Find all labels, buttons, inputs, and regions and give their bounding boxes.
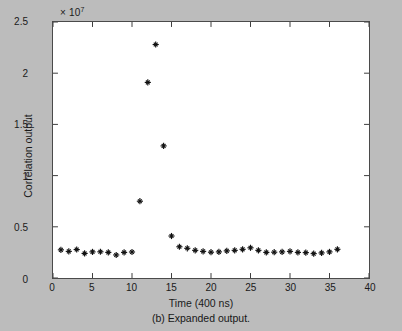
data-point-marker (66, 248, 72, 254)
data-point-marker (224, 248, 230, 254)
data-point-marker (208, 249, 214, 255)
data-point-marker (303, 250, 309, 256)
x-tick-label: 25 (245, 282, 256, 293)
x-tick-label: 5 (89, 282, 95, 293)
data-point-marker (89, 249, 95, 255)
y-axis-multiplier-base: × 10 (60, 7, 81, 18)
y-tick-label: 2.5 (14, 16, 28, 27)
figure-caption: (b) Expanded output. (0, 312, 402, 324)
data-point-marker (295, 249, 301, 255)
data-point-marker (287, 248, 293, 254)
x-tick-label: 15 (166, 282, 177, 293)
data-point-marker (326, 249, 332, 255)
x-axis-title: Time (400 ns) (0, 297, 402, 309)
data-point-marker (240, 246, 246, 252)
data-point-marker (271, 249, 277, 255)
data-point-marker (232, 247, 238, 253)
y-tick-label: 0 (22, 274, 28, 285)
data-point-marker (192, 247, 198, 253)
x-tick-label: 35 (325, 282, 336, 293)
data-point-marker (216, 249, 222, 255)
data-point-marker (113, 252, 119, 258)
scatter-plot-canvas (53, 22, 369, 278)
data-point-marker (168, 233, 174, 239)
data-point-marker (137, 198, 143, 204)
data-point-marker (263, 249, 269, 255)
y-axis-title: Correlation output (22, 76, 34, 236)
x-tick-label: 10 (126, 282, 137, 293)
plot-area (52, 21, 370, 279)
data-point-marker (334, 246, 340, 252)
data-point-marker (184, 245, 190, 251)
x-tick-label: 40 (364, 282, 375, 293)
x-tick-label: 20 (205, 282, 216, 293)
data-point-marker (153, 41, 159, 47)
data-point-marker (247, 245, 253, 251)
data-point-marker (200, 248, 206, 254)
data-point-marker (279, 249, 285, 255)
y-axis-multiplier-exponent: 7 (81, 6, 85, 13)
data-point-marker (58, 247, 64, 253)
figure-panel: × 107 00.511.522.5 0510152025303540 Time… (0, 0, 402, 331)
data-point-marker (105, 249, 111, 255)
data-point-marker (145, 79, 151, 85)
data-point-marker (121, 249, 127, 255)
axis-tick-marks (53, 22, 369, 278)
data-point-marker (311, 251, 317, 257)
x-tick-label: 30 (285, 282, 296, 293)
x-tick-label: 0 (49, 282, 55, 293)
data-point-marker (129, 249, 135, 255)
data-point-marker (161, 143, 167, 149)
data-point-marker (74, 246, 80, 252)
data-point-marker (82, 250, 88, 256)
y-axis-multiplier: × 107 (60, 6, 85, 18)
data-point-marker (319, 250, 325, 256)
data-point-marker (97, 249, 103, 255)
data-point-marker (176, 244, 182, 250)
data-point-markers (58, 41, 341, 258)
data-point-marker (255, 247, 261, 253)
